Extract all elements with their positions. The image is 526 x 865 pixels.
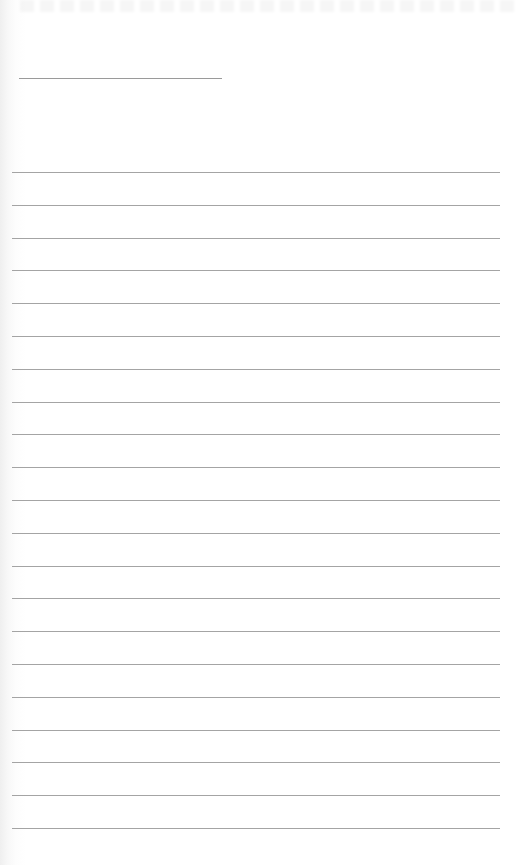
ruled-line bbox=[12, 631, 500, 632]
ruled-line bbox=[12, 270, 500, 271]
ruled-line bbox=[12, 336, 500, 337]
ruled-line bbox=[12, 500, 500, 501]
ruled-line bbox=[12, 664, 500, 665]
ruled-line bbox=[12, 762, 500, 763]
ruled-lines bbox=[0, 0, 526, 865]
ruled-line bbox=[12, 434, 500, 435]
ruled-line bbox=[12, 598, 500, 599]
ruled-line bbox=[12, 795, 500, 796]
ruled-line bbox=[12, 402, 500, 403]
ruled-line bbox=[12, 730, 500, 731]
ruled-line bbox=[12, 467, 500, 468]
paper-page bbox=[0, 0, 526, 865]
ruled-line bbox=[12, 238, 500, 239]
ruled-line bbox=[12, 828, 500, 829]
ruled-line bbox=[12, 369, 500, 370]
ruled-line bbox=[12, 697, 500, 698]
ruled-line bbox=[12, 205, 500, 206]
ruled-line bbox=[12, 303, 500, 304]
ruled-line bbox=[12, 533, 500, 534]
ruled-line bbox=[12, 172, 500, 173]
ruled-line bbox=[12, 566, 500, 567]
